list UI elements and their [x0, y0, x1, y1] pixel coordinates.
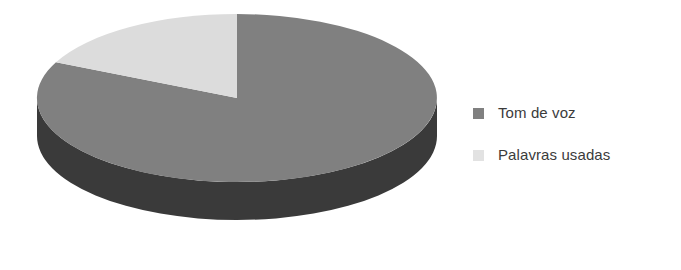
pie-chart-figure: Tom de voz Palavras usadas — [0, 0, 681, 270]
legend-item-tom-de-voz[interactable]: Tom de voz — [473, 104, 673, 122]
pie-chart-plot-area — [0, 0, 460, 270]
pie-chart-svg — [0, 0, 460, 270]
square-swatch-icon — [473, 150, 484, 161]
pie-top-face — [37, 14, 437, 182]
square-swatch-icon — [473, 108, 484, 119]
chart-legend: Tom de voz Palavras usadas — [473, 104, 673, 164]
legend-item-palavras-usadas[interactable]: Palavras usadas — [473, 146, 673, 164]
legend-item-label: Palavras usadas — [498, 146, 610, 164]
legend-item-label: Tom de voz — [498, 104, 576, 122]
